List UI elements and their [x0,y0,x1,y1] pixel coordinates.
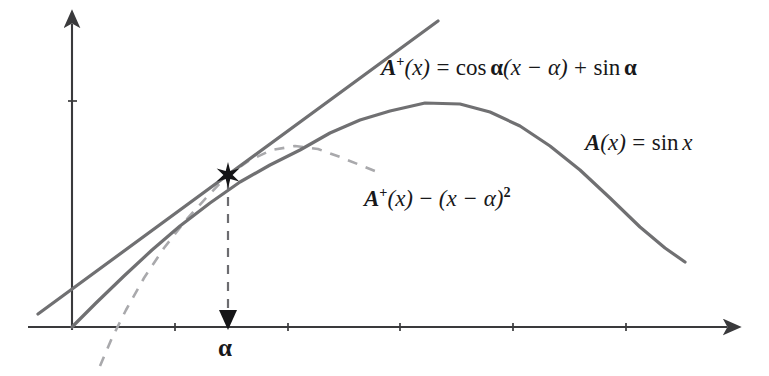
sine-arg: (x) [600,130,626,155]
tangent-sin: sin [587,55,620,80]
dashed-term: (x − α) [432,186,503,211]
tangent-plus: + [568,55,587,80]
sine-fn: A [585,130,600,155]
sine-eq: = [626,130,645,155]
dashed-quadratic-curve [100,146,375,366]
tangent-alpha-2: α [620,55,637,80]
dashed-minus: − [413,186,432,211]
dashed-fn: A [364,186,379,211]
dashed-exponent: 2 [503,184,510,200]
tangent-cos: cos [449,55,486,80]
tangent-arg: (x) [404,55,430,80]
sine-var: x [679,130,693,155]
alpha-axis-label: α [218,335,232,360]
dashed-arg: (x) [387,186,413,211]
figure-container: A+(x)=cosα(x − α)+sinα A(x)=sinx A+(x)−(… [0,0,769,376]
tangent-term: (x − α) [503,55,568,80]
sine-op: sin [645,130,678,155]
tangent-line-label: A+(x)=cosα(x − α)+sinα [381,54,637,79]
tangent-fn: A [381,55,396,80]
sine-curve-label: A(x)=sinx [585,131,692,154]
dashed-curve-label: A+(x)−(x − α)2 [364,185,511,210]
tangent-eq: = [430,55,449,80]
tangent-alpha-1: α [487,55,504,80]
tangent-line-curve [38,21,438,314]
